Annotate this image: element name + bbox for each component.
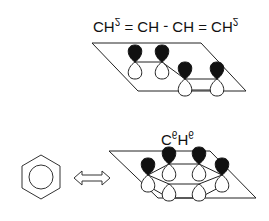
butadiene-formula: CH2 = CH - CH = CH2: [93, 16, 239, 36]
benzene-formula: C6H6: [161, 129, 194, 149]
butadiene-group: CH2 = CH - CH = CH2: [92, 16, 246, 96]
benzene-group: C6H6: [22, 129, 256, 201]
p-orbital-lower: [162, 184, 176, 201]
diagram-svg: CH2 = CH - CH = CH2: [0, 0, 269, 221]
p-orbital-lower: [192, 184, 206, 201]
orbital-diagram: CH2 = CH - CH = CH2: [0, 0, 269, 221]
benzene-ring-icon: [22, 155, 60, 199]
sigma-bonds: [135, 62, 217, 90]
p-orbital: [215, 158, 229, 192]
svg-text:CH2 = CH - CH = CH2: CH2 = CH - CH = CH2: [93, 16, 239, 36]
molecular-plane: [109, 151, 256, 198]
svg-text:C6H6: C6H6: [161, 129, 194, 149]
double-headed-arrow-icon: [74, 171, 110, 185]
sigma-bonds: [148, 164, 222, 198]
p-orbital: [141, 158, 155, 192]
